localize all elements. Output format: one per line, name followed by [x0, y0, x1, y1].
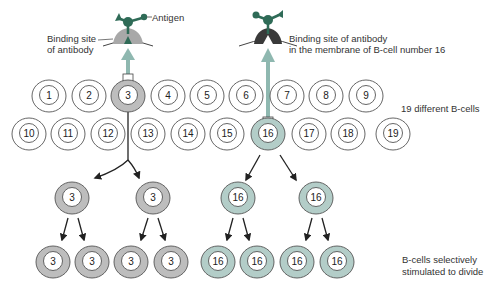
b-cell-16: 16 [221, 182, 255, 214]
b-cell-number: 17 [303, 128, 315, 139]
b-cell-3: 3 [36, 246, 70, 278]
b-cell-number: 3 [89, 256, 95, 267]
b-cell-number: 9 [363, 90, 369, 101]
b-cell-number: 3 [69, 192, 75, 203]
b-cell-16: 16 [240, 246, 274, 278]
b-cell-number: 1 [46, 90, 52, 101]
clonal-selection-diagram: 123456789 10111213141516171819 331616 33… [0, 0, 503, 290]
b-cell-number: 16 [310, 192, 322, 203]
b-cell-16: 16 [201, 246, 235, 278]
b-cell-number: 16 [331, 256, 343, 267]
b-cell-14: 14 [171, 118, 205, 150]
antigen-receptor-left [98, 13, 153, 82]
b-cell-number: 16 [262, 128, 274, 139]
b-cell-19: 19 [376, 118, 410, 150]
b-cell-number: 16 [212, 256, 224, 267]
b-cell-4: 4 [151, 80, 185, 112]
b-cell-10: 10 [12, 118, 46, 150]
b-cell-number: 16 [232, 192, 244, 203]
b-cell-number: 3 [125, 90, 131, 101]
b-cell-16: 16 [320, 246, 354, 278]
binding-site-right-label-line2: in the membrane of B-cell number 16 [289, 44, 445, 55]
b-cell-number: 13 [142, 128, 154, 139]
b-cell-number: 8 [323, 90, 329, 101]
b-cell-number: 5 [204, 90, 210, 101]
b-cell-number: 15 [221, 128, 233, 139]
b-cell-3: 3 [136, 182, 170, 214]
b-cell-7: 7 [270, 80, 304, 112]
b-cell-number: 3 [150, 192, 156, 203]
b-cell-5: 5 [190, 80, 224, 112]
selectively-stimulated-label-line1: B-cells selectively [402, 254, 477, 265]
b-cell-number: 16 [251, 256, 263, 267]
b-cell-16: 16 [299, 182, 333, 214]
b-cell-17: 17 [292, 118, 326, 150]
b-cell-3: 3 [75, 246, 109, 278]
b-cell-number: 3 [50, 256, 56, 267]
b-cell-2: 2 [72, 80, 106, 112]
b-cell-3: 3 [111, 80, 145, 112]
b-cell-6: 6 [229, 80, 263, 112]
b-cell-number: 2 [86, 90, 92, 101]
binding-site-left-label-line2: of antibody [47, 44, 93, 55]
daughter-cells-generation-2: 333316161616 [36, 246, 354, 278]
antigen-label: Antigen [152, 12, 184, 23]
different-b-cells-label: 19 different B-cells [401, 103, 480, 114]
b-cell-number: 10 [23, 128, 35, 139]
b-cell-3: 3 [114, 246, 148, 278]
binding-site-left-label-line1: Binding site [47, 33, 96, 44]
b-cell-number: 12 [102, 128, 114, 139]
b-cell-number: 3 [128, 256, 134, 267]
b-cell-12: 12 [91, 118, 125, 150]
b-cell-16: 16 [280, 246, 314, 278]
b-cell-number: 14 [182, 128, 194, 139]
b-cell-16: 16 [251, 118, 285, 150]
binding-site-right-label-line1: Binding site of antibody [289, 33, 387, 44]
b-cell-3: 3 [154, 246, 188, 278]
b-cells-row-1: 123456789 [32, 80, 383, 112]
b-cell-number: 18 [342, 128, 354, 139]
b-cell-number: 19 [387, 128, 399, 139]
b-cell-1: 1 [32, 80, 66, 112]
b-cell-9: 9 [349, 80, 383, 112]
daughter-cells-generation-1: 331616 [55, 182, 333, 214]
antigen-icon-right [253, 10, 284, 34]
b-cell-3: 3 [55, 182, 89, 214]
b-cell-number: 3 [168, 256, 174, 267]
b-cells-row-2: 10111213141516171819 [12, 118, 410, 150]
selectively-stimulated-label-line2: stimulated to divide [402, 266, 483, 277]
b-cell-13: 13 [131, 118, 165, 150]
b-cell-number: 16 [291, 256, 303, 267]
b-cell-15: 15 [210, 118, 244, 150]
b-cell-number: 4 [165, 90, 171, 101]
b-cell-number: 7 [284, 90, 290, 101]
b-cell-11: 11 [51, 118, 85, 150]
b-cell-number: 11 [63, 128, 74, 139]
b-cell-number: 6 [243, 90, 249, 101]
b-cell-8: 8 [309, 80, 343, 112]
b-cell-18: 18 [331, 118, 365, 150]
